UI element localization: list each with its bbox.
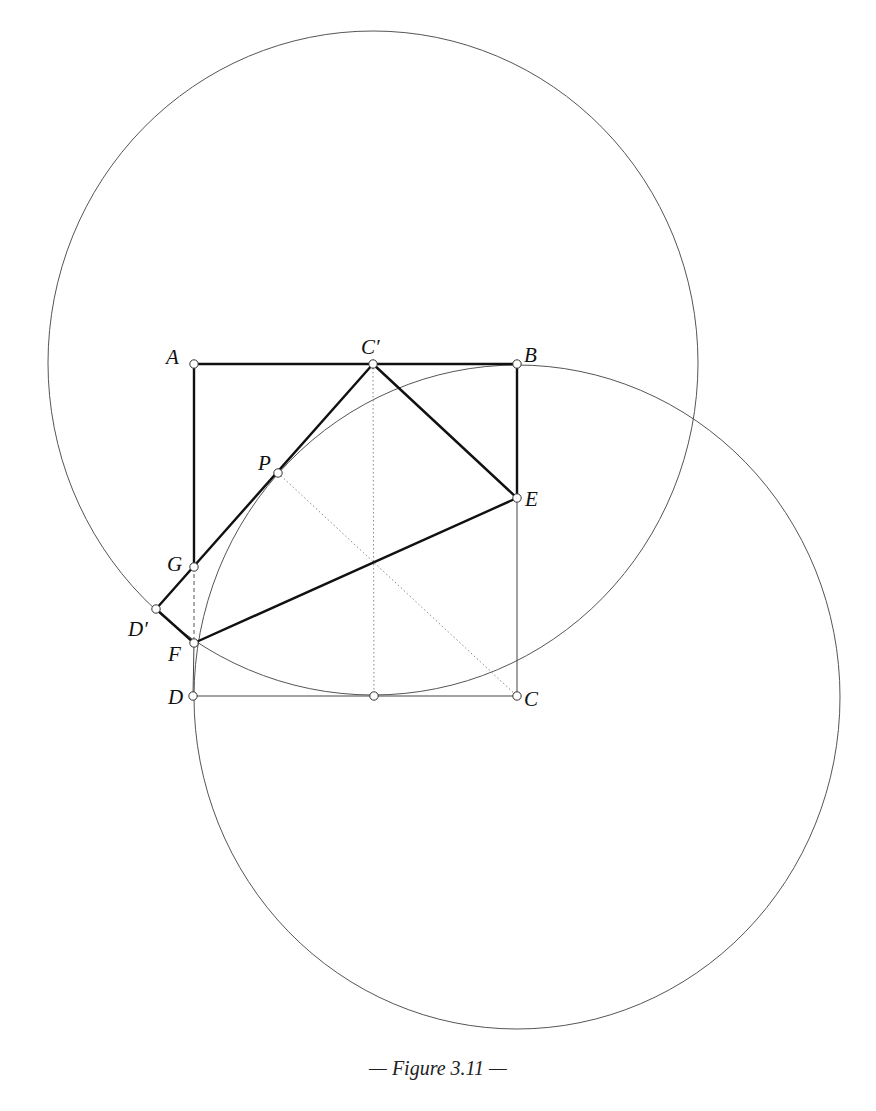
figure-caption: — Figure 3.11 — — [368, 1057, 507, 1080]
point-C — [513, 692, 521, 700]
point-A — [190, 360, 198, 368]
geometry-figure: A C′ B E P G D′ F D C — Figure 3.11 — — [0, 0, 876, 1111]
point-Cp — [369, 360, 377, 368]
label-C: C — [524, 687, 539, 711]
label-F: F — [167, 642, 181, 666]
point-D — [189, 692, 197, 700]
point-M — [370, 692, 378, 700]
label-P: P — [257, 451, 271, 475]
segment-FE — [194, 498, 517, 643]
label-Dp: D′ — [127, 617, 148, 641]
point-G — [190, 563, 198, 571]
label-G: G — [167, 552, 182, 576]
label-D: D — [167, 685, 183, 709]
point-E — [513, 494, 521, 502]
label-A: A — [164, 345, 179, 369]
point-P — [274, 469, 282, 477]
segment-DpF — [156, 609, 194, 643]
label-Cp: C′ — [361, 335, 380, 359]
segment-CpDp — [156, 364, 373, 609]
dotted-Cp-M — [373, 364, 374, 696]
point-Dp — [152, 605, 160, 613]
dotted-P-C — [278, 473, 517, 696]
label-E: E — [524, 487, 538, 511]
segment-CpE — [373, 364, 517, 498]
label-B: B — [524, 343, 537, 367]
point-B — [513, 360, 521, 368]
point-F — [190, 639, 198, 647]
